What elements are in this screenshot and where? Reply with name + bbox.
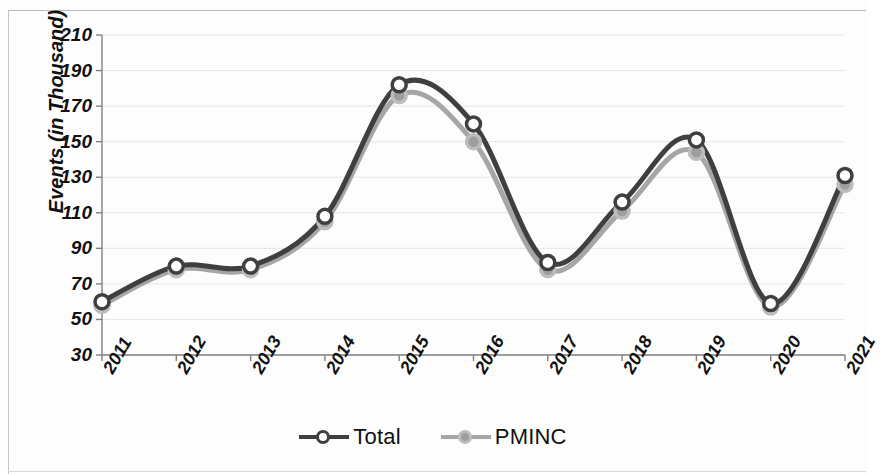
y-axis-tick-label: 30 <box>46 344 92 366</box>
data-point-total-2021 <box>838 168 852 182</box>
data-point-total-2018 <box>615 195 629 209</box>
legend-marker-pminc-icon <box>441 428 491 446</box>
y-axis-tick-label: 70 <box>46 273 92 295</box>
data-point-total-2013 <box>244 259 258 273</box>
y-axis-tick-label: 110 <box>46 202 92 224</box>
legend-label-total: Total <box>353 424 400 450</box>
data-point-total-2016 <box>467 117 481 131</box>
data-point-total-2019 <box>689 133 703 147</box>
data-point-pminc-2016 <box>467 135 481 149</box>
y-axis-tick-label: 130 <box>46 166 92 188</box>
legend-item-total[interactable]: Total <box>299 424 400 450</box>
y-axis-tick-label: 50 <box>46 308 92 330</box>
y-axis-tick-label: 90 <box>46 237 92 259</box>
y-axis-tick-label: 190 <box>46 60 92 82</box>
y-axis-tick-label: 150 <box>46 131 92 153</box>
legend-item-pminc[interactable]: PMINC <box>441 424 567 450</box>
data-point-total-2012 <box>169 259 183 273</box>
data-point-total-2011 <box>95 295 109 309</box>
data-point-total-2020 <box>764 296 778 310</box>
legend-label-pminc: PMINC <box>495 424 567 450</box>
legend-marker-total-icon <box>299 428 349 446</box>
data-point-total-2015 <box>392 78 406 92</box>
data-point-total-2017 <box>541 256 555 270</box>
chart-legend: Total PMINC <box>0 424 866 450</box>
y-axis-tick-label: 170 <box>46 95 92 117</box>
data-point-total-2014 <box>318 209 332 223</box>
y-axis-tick-label: 210 <box>46 24 92 46</box>
